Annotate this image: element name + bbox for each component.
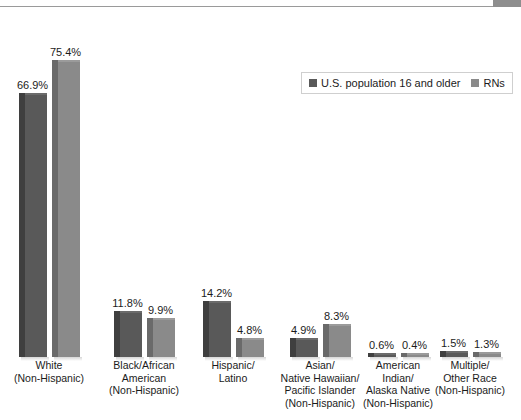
bar-us-population[interactable]: 66.9% xyxy=(19,75,47,357)
bar-rect xyxy=(401,353,429,357)
bar-top-face xyxy=(242,338,264,340)
bar-group: 14.2%4.8% xyxy=(190,9,276,357)
header-divider-rule xyxy=(0,6,521,7)
bar-top-face xyxy=(25,93,47,95)
chart-plot-area: 66.9%75.4%11.8%9.9%14.2%4.8%4.9%8.3%0.6%… xyxy=(0,9,521,357)
bar-us-population[interactable]: 11.8% xyxy=(114,293,142,357)
category-label: Hispanic/Latino xyxy=(187,359,279,384)
bar-group: 11.8%9.9% xyxy=(99,9,189,357)
bar-top-face xyxy=(296,338,318,340)
bar-us-population[interactable]: 4.9% xyxy=(290,320,318,357)
bar-rns[interactable]: 4.8% xyxy=(236,320,264,357)
bar-value-label: 75.4% xyxy=(50,46,81,58)
bar-value-label: 4.9% xyxy=(291,324,316,336)
bar-value-label: 66.9% xyxy=(17,79,48,91)
bar-group: 1.5%1.3% xyxy=(430,9,510,357)
bar-top-face xyxy=(153,318,175,320)
bar-front-face xyxy=(25,93,47,357)
bar-front-face xyxy=(296,338,318,357)
bar-group: 4.9%8.3% xyxy=(277,9,363,357)
bar-top-face xyxy=(209,301,231,303)
legend-item-label: RNs xyxy=(483,77,504,89)
header-corner-block xyxy=(493,0,521,7)
category-label-line: Black/African xyxy=(98,359,190,372)
bar-top-face xyxy=(407,353,429,355)
bar-value-label: 9.9% xyxy=(148,304,173,316)
bar-front-face xyxy=(58,60,80,357)
category-label-line: White xyxy=(3,359,95,372)
bar-top-face xyxy=(120,311,142,313)
bar-rect xyxy=(440,351,468,357)
bar-top-face xyxy=(329,324,351,326)
bar-front-face xyxy=(242,338,264,357)
bar-value-label: 1.5% xyxy=(441,337,466,349)
bar-top-face xyxy=(58,60,80,62)
legend-item[interactable]: RNs xyxy=(471,77,504,89)
bar-rect xyxy=(52,60,80,357)
bar-rect xyxy=(290,338,318,357)
bar-rns[interactable]: 1.3% xyxy=(473,334,501,357)
bar-rect xyxy=(147,318,175,357)
bar-rns[interactable]: 8.3% xyxy=(323,306,351,357)
bar-top-face xyxy=(374,353,396,355)
category-label-line: Multiple/ xyxy=(424,359,516,372)
category-label-line: (Non-Hispanic) xyxy=(98,384,190,397)
square-swatch-icon xyxy=(309,79,317,87)
category-label: Black/AfricanAmerican(Non-Hispanic) xyxy=(98,359,190,397)
bar-group: 66.9%75.4% xyxy=(4,9,94,357)
bar-value-label: 1.3% xyxy=(474,338,499,350)
bar-value-label: 11.8% xyxy=(112,297,142,309)
category-label-line: American xyxy=(98,372,190,385)
bar-top-face xyxy=(479,352,501,354)
bar-front-face xyxy=(209,301,231,357)
category-label-line: Hispanic/ xyxy=(187,359,279,372)
bar-us-population[interactable]: 14.2% xyxy=(203,283,231,357)
bar-value-label: 14.2% xyxy=(201,287,232,299)
legend-item[interactable]: U.S. population 16 and older xyxy=(309,77,460,89)
clipped-header-text xyxy=(300,0,500,5)
bar-value-label: 0.6% xyxy=(369,339,394,351)
square-swatch-icon xyxy=(471,79,479,87)
grouped-bar-chart: 66.9%75.4%11.8%9.9%14.2%4.8%4.9%8.3%0.6%… xyxy=(0,9,521,420)
bar-rect xyxy=(203,301,231,357)
bar-value-label: 0.4% xyxy=(402,339,427,351)
bar-front-face xyxy=(120,311,142,357)
category-label-line: (Non-Hispanic) xyxy=(3,372,95,385)
bar-value-label: 4.8% xyxy=(237,324,262,336)
bar-rect xyxy=(323,324,351,357)
bar-front-face xyxy=(153,318,175,357)
bar-front-face xyxy=(329,324,351,357)
page-header-strip xyxy=(0,0,521,9)
bar-value-label: 8.3% xyxy=(324,310,349,322)
bar-rect xyxy=(473,352,501,357)
category-label: Multiple/Other Race(Non-Hispanic) xyxy=(424,359,516,397)
chart-category-axis: White(Non-Hispanic)Black/AfricanAmerican… xyxy=(0,359,521,420)
chart-legend: U.S. population 16 and olderRNs xyxy=(301,72,513,94)
bar-rns[interactable]: 9.9% xyxy=(147,300,175,357)
bar-rect xyxy=(19,93,47,357)
bar-rect xyxy=(236,338,264,357)
bar-top-face xyxy=(446,351,468,353)
bar-rect xyxy=(114,311,142,357)
bar-group: 0.6%0.4% xyxy=(358,9,438,357)
bar-us-population[interactable]: 0.6% xyxy=(368,335,396,357)
bar-rns[interactable]: 0.4% xyxy=(401,335,429,357)
bar-rns[interactable]: 75.4% xyxy=(52,42,80,357)
category-label-line: (Non-Hispanic) xyxy=(352,397,444,410)
category-label-line: Other Race xyxy=(424,372,516,385)
category-label-line: Latino xyxy=(187,372,279,385)
bar-us-population[interactable]: 1.5% xyxy=(440,333,468,357)
legend-item-label: U.S. population 16 and older xyxy=(321,77,460,89)
category-label: White(Non-Hispanic) xyxy=(3,359,95,384)
bar-rect xyxy=(368,353,396,357)
category-label-line: (Non-Hispanic) xyxy=(424,384,516,397)
